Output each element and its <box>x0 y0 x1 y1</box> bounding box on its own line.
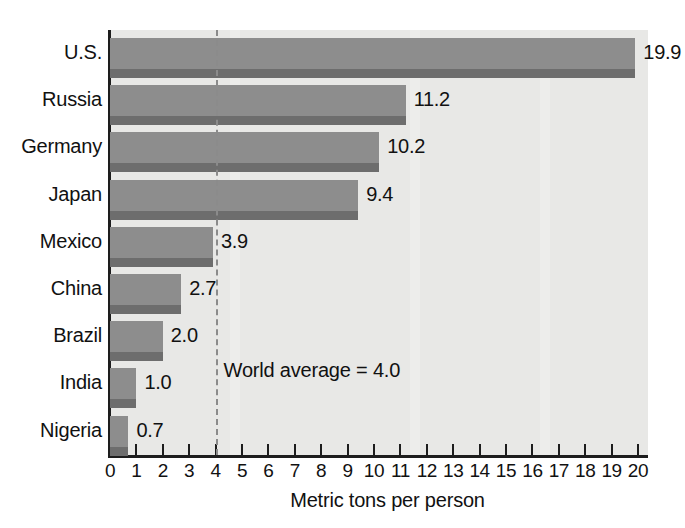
bar-shadow <box>110 399 136 408</box>
category-label: U.S. <box>64 41 102 64</box>
world-average-label: World average = 4.0 <box>224 359 401 382</box>
bar-value-label: 2.7 <box>189 277 216 300</box>
bar <box>110 180 358 211</box>
x-tick-mark <box>267 444 269 455</box>
x-tick-label: 20 <box>618 460 658 482</box>
bar-shadow <box>110 69 635 78</box>
chart-figure: 01234567891011121314151617181920 U.S.19.… <box>0 0 685 528</box>
x-tick-mark <box>479 444 481 455</box>
x-tick-mark <box>558 444 560 455</box>
bar-value-label: 11.2 <box>414 88 450 111</box>
x-tick-mark <box>294 444 296 455</box>
x-tick-mark <box>241 444 243 455</box>
x-axis-line <box>108 455 648 458</box>
bar <box>110 416 128 447</box>
x-tick-mark <box>531 444 533 455</box>
bar <box>110 321 163 352</box>
x-tick-mark <box>135 444 137 455</box>
bar-shadow <box>110 211 358 220</box>
x-tick-mark <box>399 444 401 455</box>
category-label: Japan <box>49 183 103 206</box>
bar-shadow <box>110 116 406 125</box>
bar <box>110 85 406 116</box>
bar <box>110 132 379 163</box>
x-tick-mark <box>584 444 586 455</box>
bar-shadow <box>110 447 128 456</box>
bar-value-label: 2.0 <box>171 324 198 347</box>
bar-value-label: 10.2 <box>387 135 425 158</box>
x-tick-mark <box>505 444 507 455</box>
bar-value-label: 19.9 <box>643 41 681 64</box>
category-label: Germany <box>21 135 102 158</box>
bar <box>110 227 213 258</box>
category-label: China <box>51 277 102 300</box>
x-axis-title: Metric tons per person <box>0 489 685 512</box>
x-tick-mark <box>611 444 613 455</box>
category-label: Nigeria <box>40 419 102 442</box>
x-tick-mark <box>426 444 428 455</box>
x-tick-mark <box>320 444 322 455</box>
category-label: Russia <box>42 88 102 111</box>
category-label: India <box>60 371 102 394</box>
x-tick-mark <box>373 444 375 455</box>
bar-value-label: 9.4 <box>366 183 393 206</box>
bar <box>110 274 181 305</box>
x-tick-mark <box>347 444 349 455</box>
x-tick-mark <box>452 444 454 455</box>
x-tick-mark <box>162 444 164 455</box>
bar-shadow <box>110 163 379 172</box>
bar-shadow <box>110 258 213 267</box>
x-axis-title-text: Metric tons per person <box>200 489 485 511</box>
bar-value-label: 0.7 <box>136 419 163 442</box>
category-label: Mexico <box>40 230 102 253</box>
bar-value-label: 3.9 <box>221 230 248 253</box>
paper-texture-band <box>540 30 550 455</box>
bar-shadow <box>110 352 163 361</box>
world-average-line <box>216 30 218 455</box>
x-tick-mark <box>188 444 190 455</box>
x-tick-mark <box>637 444 639 455</box>
bar <box>110 368 136 399</box>
category-label: Brazil <box>53 324 102 347</box>
bar <box>110 38 635 69</box>
bar-value-label: 1.0 <box>144 371 171 394</box>
bar-shadow <box>110 305 181 314</box>
